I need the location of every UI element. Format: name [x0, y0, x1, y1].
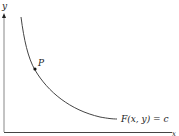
y-axis-arrow-icon — [2, 13, 6, 18]
curve-label: F(x, y) = c — [120, 114, 168, 124]
y-axis — [2, 13, 6, 132]
y-axis-label: y — [1, 1, 8, 11]
point-p-marker — [33, 67, 36, 70]
level-curve-diagram: y x P F(x, y) = c — [0, 0, 179, 136]
x-axis-label: x — [172, 130, 176, 136]
point-p-label: P — [37, 58, 45, 68]
